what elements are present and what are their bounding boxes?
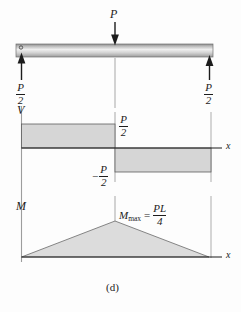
shear-negative-denominator: 2 (101, 177, 107, 188)
beam-diagram-figure: P P 2 P 2 V P 2 − P 2 x M Mmax = PL (0, 0, 241, 312)
left-reaction-numerator: P (16, 82, 25, 93)
shear-positive-numerator: P (119, 114, 128, 125)
shear-positive-denominator: 2 (120, 127, 128, 138)
shear-negative-label: − P 2 (92, 164, 108, 188)
right-reaction-label: P 2 (204, 82, 213, 106)
applied-load-label: P (110, 8, 117, 20)
moment-max-numerator: PL (153, 203, 166, 214)
applied-load-arrow-icon (111, 22, 119, 46)
shear-positive-block (22, 124, 116, 148)
shear-negative-fraction: P 2 (99, 164, 108, 188)
moment-max-annotation: Mmax = PL 4 (119, 203, 166, 227)
moment-max-base: M (119, 209, 128, 221)
shear-axis-label: V (17, 104, 24, 116)
moment-max-symbol: Mmax (119, 209, 141, 221)
beam-diagram-svg (0, 0, 241, 312)
beam-body (16, 44, 213, 57)
moment-x-axis-label: x (226, 250, 230, 260)
moment-max-subscript: max (128, 214, 141, 223)
moment-max-fraction: PL 4 (153, 203, 166, 227)
shear-x-axis-label: x (226, 141, 230, 151)
figure-caption: (d) (106, 281, 119, 293)
moment-max-equals: = (144, 209, 150, 221)
shear-negative-numerator: P (100, 164, 107, 175)
moment-triangle (22, 221, 210, 257)
right-reaction-numerator: P (204, 82, 213, 93)
moment-max-denominator: 4 (157, 216, 163, 227)
right-reaction-denominator: 2 (205, 95, 213, 106)
moment-axis-label: M (16, 200, 26, 212)
beam-member (16, 44, 213, 57)
shear-negative-sign: − (92, 170, 98, 182)
shear-positive-label: P 2 (119, 114, 128, 138)
right-reaction-arrow-icon (206, 55, 214, 80)
shear-negative-block (115, 148, 211, 172)
